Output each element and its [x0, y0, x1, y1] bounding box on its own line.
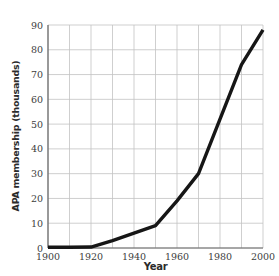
apa-membership-line-chart: 0102030405060708090190019201940196019802… [0, 0, 279, 276]
x-tick-label: 2000 [251, 251, 275, 262]
y-tick-label: 70 [31, 69, 43, 80]
y-tick-label: 80 [31, 44, 43, 55]
y-tick-label: 90 [31, 20, 43, 31]
x-tick-label: 1960 [165, 251, 189, 262]
y-tick-label: 20 [31, 193, 43, 204]
y-tick-label: 30 [31, 168, 43, 179]
y-tick-label: 10 [31, 218, 43, 229]
y-axis-title-text: APA membership (thousands) [10, 61, 21, 212]
x-tick-label: 1980 [208, 251, 232, 262]
y-tick-label: 40 [31, 143, 43, 154]
x-tick-label: 1900 [36, 251, 60, 262]
chart-plot-area: 0102030405060708090190019201940196019802… [0, 0, 279, 276]
y-tick-label: 60 [31, 94, 43, 105]
x-tick-label: 1920 [79, 251, 103, 262]
x-axis-title: Year [48, 261, 263, 272]
x-tick-label: 1940 [122, 251, 146, 262]
y-tick-label: 50 [31, 119, 43, 130]
